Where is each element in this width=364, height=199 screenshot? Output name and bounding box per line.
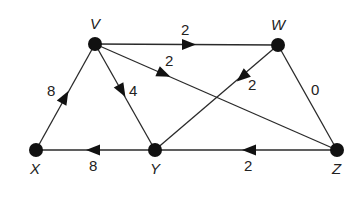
weight-z-y: 2 (244, 157, 252, 174)
node-label-v: V (90, 15, 102, 32)
edge-v-y (95, 44, 155, 150)
node-v (88, 37, 102, 51)
node-y (148, 143, 162, 157)
node-x (29, 143, 43, 157)
weight-w-z: 0 (311, 81, 319, 98)
weight-y-x: 8 (89, 157, 97, 174)
node-label-z: Z (331, 160, 342, 177)
weight-x-v: 8 (47, 82, 55, 99)
node-z (330, 143, 344, 157)
edge-w-y (155, 45, 278, 150)
arrow-x-v-icon (57, 88, 73, 106)
node-label-y: Y (150, 160, 161, 177)
arrow-v-y-icon (114, 82, 130, 100)
arrow-v-w-icon (182, 39, 196, 50)
directed-graph: 2 2 4 8 2 0 8 2 V W X Y Z (0, 0, 364, 199)
arrow-y-x-icon (86, 145, 100, 156)
edge-w-z (278, 45, 337, 150)
node-w (271, 38, 285, 52)
weight-w-y: 2 (248, 76, 256, 93)
weight-v-y: 4 (129, 82, 137, 99)
node-label-w: W (271, 16, 287, 33)
weight-v-z: 2 (165, 52, 173, 69)
weight-v-w: 2 (181, 21, 189, 38)
arrow-z-y-icon (242, 145, 256, 156)
node-label-x: X (29, 160, 41, 177)
